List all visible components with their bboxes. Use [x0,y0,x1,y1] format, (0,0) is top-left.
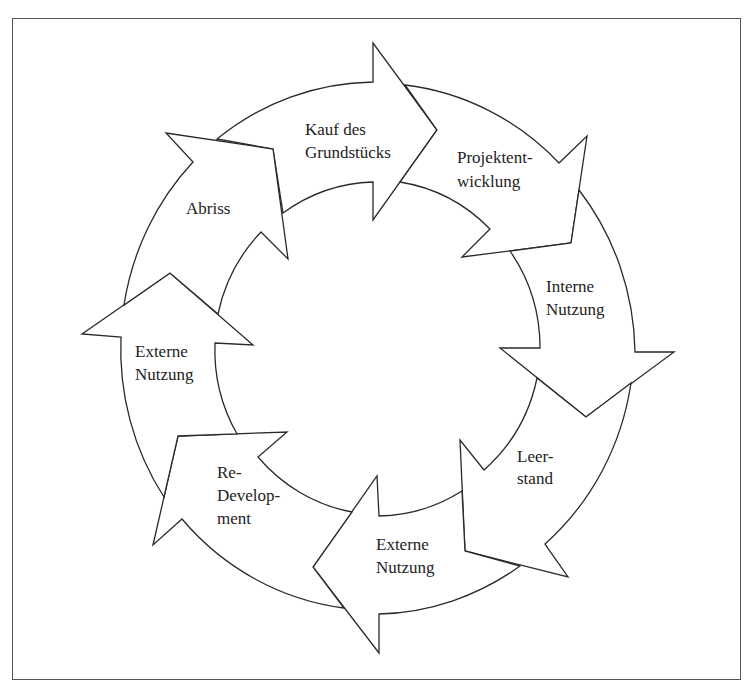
label-externe-bottom-line2: Nutzung [376,558,435,577]
label-redevelopment-line2: Develop- [217,486,281,505]
label-redevelopment-line3: ment [217,509,251,528]
label-kauf-line1: Kauf des [305,120,366,139]
arrow-shape-projekt [400,85,587,257]
cycle-diagram: Kauf des Grundstücks Projektent- wicklun… [0,0,756,688]
label-projekt-line1: Projektent- [457,148,533,167]
arrow-redevelopment [153,432,352,608]
label-leerstand-line1: Leer- [517,447,554,466]
label-projekt-line2: wicklung [457,172,521,191]
label-interne-line1: Interne [546,277,594,296]
label-kauf-line2: Grundstücks [305,143,391,162]
label-redevelopment-line1: Re- [217,463,242,482]
label-externe-left-line2: Nutzung [135,365,194,384]
arrow-abriss [124,133,288,314]
label-externe-bottom-line1: Externe [376,535,429,554]
arrow-shape-abriss [124,133,288,314]
label-interne-line2: Nutzung [546,300,605,319]
label-leerstand-line2: stand [517,469,553,488]
label-abriss: Abriss [186,199,230,218]
arrow-projektentwicklung [400,85,587,257]
arrow-shape-redevelopment [153,432,352,608]
label-externe-left-line1: Externe [135,342,188,361]
